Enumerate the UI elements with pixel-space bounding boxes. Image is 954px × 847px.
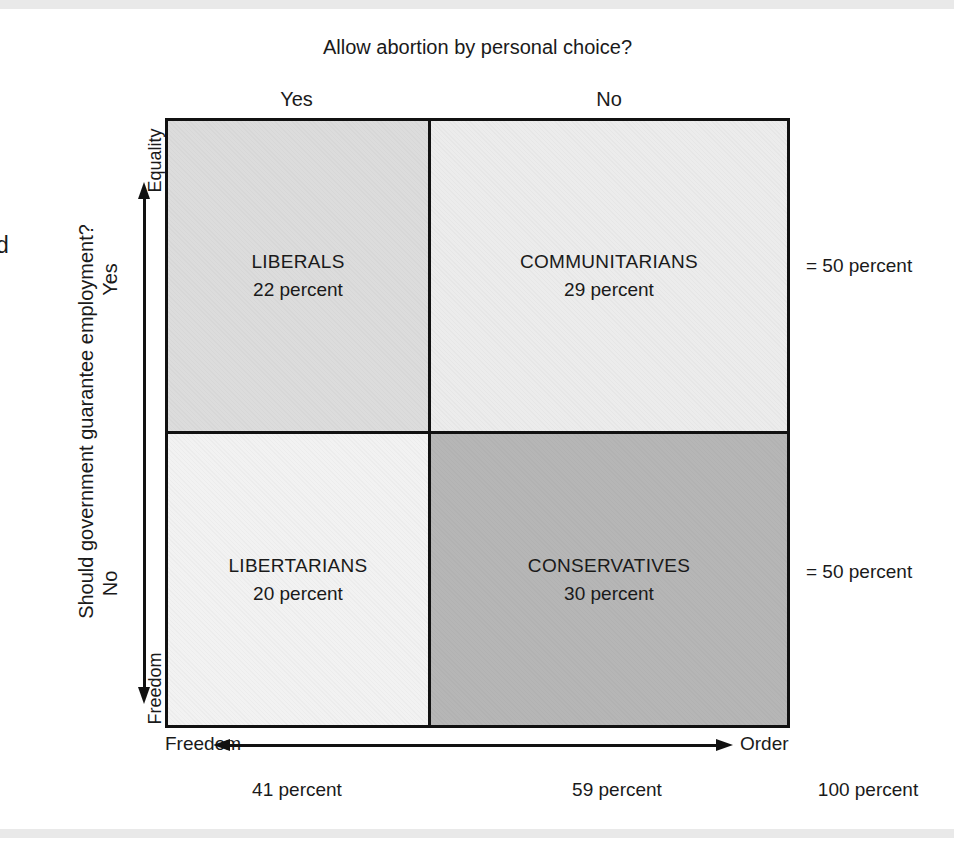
row-axis-question: Should government guarantee employment? xyxy=(75,212,98,632)
column-axis-question: Allow abortion by personal choice? xyxy=(165,36,790,59)
quadrant-communitarians-label: COMMUNITARIANS xyxy=(520,248,698,276)
quadrant-communitarians[interactable]: COMMUNITARIANS 29 percent xyxy=(431,121,787,431)
scan-band-bottom xyxy=(0,829,954,838)
quadrant-conservatives-label: CONSERVATIVES xyxy=(528,552,690,580)
horizontal-axis-row: Freedom Order xyxy=(165,733,865,761)
quadrant-conservatives-percent: 30 percent xyxy=(564,580,654,608)
row-total-bottom: = 50 percent xyxy=(806,561,912,583)
column-header-yes: Yes xyxy=(165,88,428,111)
quadrant-libertarians[interactable]: LIBERTARIANS 20 percent xyxy=(168,434,428,725)
quadrant-liberals-label: LIBERALS xyxy=(251,248,344,276)
quadrant-liberals[interactable]: LIBERALS 22 percent xyxy=(168,121,428,431)
vertical-axis-arrow xyxy=(138,182,151,704)
page-edge-cutoff-glyph: d xyxy=(0,232,9,259)
horizontal-axis-shaft xyxy=(226,744,720,747)
matrix-vertical-divider xyxy=(428,121,431,725)
quadrant-libertarians-percent: 20 percent xyxy=(253,580,343,608)
vertical-axis-label-freedom: Freedom xyxy=(145,644,166,734)
matrix-horizontal-divider xyxy=(168,431,787,434)
quadrant-communitarians-percent: 29 percent xyxy=(564,276,654,304)
quadrant-conservatives[interactable]: CONSERVATIVES 30 percent xyxy=(431,434,787,725)
quadrant-matrix: LIBERALS 22 percent COMMUNITARIANS 29 pe… xyxy=(165,118,790,728)
row-header-yes: Yes xyxy=(99,250,122,310)
row-total-top: = 50 percent xyxy=(806,255,912,277)
scan-band-top xyxy=(0,0,954,9)
column-total-right: 59 percent xyxy=(537,779,697,801)
column-total-left: 41 percent xyxy=(217,779,377,801)
figure-canvas: d Allow abortion by personal choice? Yes… xyxy=(0,0,954,847)
column-header-no: No xyxy=(428,88,790,111)
arrow-right-icon xyxy=(716,739,733,751)
row-header-no: No xyxy=(99,554,122,614)
horizontal-axis-arrow xyxy=(213,739,733,752)
vertical-axis-shaft xyxy=(143,195,146,691)
grand-total: 100 percent xyxy=(788,779,948,801)
horizontal-axis-label-order: Order xyxy=(740,733,789,755)
quadrant-liberals-percent: 22 percent xyxy=(253,276,343,304)
vertical-axis-label-equality: Equality xyxy=(145,116,166,206)
quadrant-libertarians-label: LIBERTARIANS xyxy=(228,552,367,580)
